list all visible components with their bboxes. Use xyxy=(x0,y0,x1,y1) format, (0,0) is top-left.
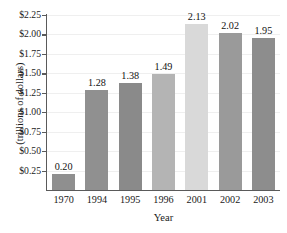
y-tick-mark xyxy=(42,151,47,152)
y-tick-label-wrap: $1.00 xyxy=(0,106,41,118)
y-tick-label-wrap: $1.25 xyxy=(0,87,41,99)
y-tick-mark xyxy=(42,34,47,35)
bar-value-label: 1.95 xyxy=(243,25,283,36)
bar xyxy=(85,90,108,190)
y-tick-label: $2.00 xyxy=(19,28,41,39)
y-tick-label: $1.75 xyxy=(19,48,41,59)
y-tick-label-wrap: $0.75 xyxy=(0,126,41,138)
y-tick-label-wrap: $2.00 xyxy=(0,28,41,40)
x-tick-label: 2003 xyxy=(243,194,283,205)
y-tick-mark xyxy=(42,93,47,94)
grid-line xyxy=(47,15,280,16)
y-tick-mark xyxy=(42,73,47,74)
y-tick-label: $1.25 xyxy=(19,87,41,98)
bar xyxy=(119,83,142,190)
bar-value-label: 0.20 xyxy=(44,161,84,172)
x-axis-title: Year xyxy=(47,212,280,223)
bar xyxy=(152,74,175,190)
bar-value-label: 1.49 xyxy=(144,61,184,72)
x-axis-line xyxy=(46,190,280,191)
bar xyxy=(52,174,75,190)
bar-chart: (trillions of dollars) $0.25$0.50$0.75$1… xyxy=(0,0,287,233)
y-tick-label: $0.50 xyxy=(19,145,41,156)
bar xyxy=(219,33,242,190)
y-tick-label-wrap: $0.50 xyxy=(0,145,41,157)
y-tick-mark xyxy=(42,54,47,55)
y-tick-label: $2.25 xyxy=(19,9,41,20)
y-tick-mark xyxy=(42,132,47,133)
y-tick-label: $0.25 xyxy=(19,165,41,176)
y-tick-mark xyxy=(42,15,47,16)
y-tick-label-wrap: $2.25 xyxy=(0,9,41,21)
y-tick-mark xyxy=(42,112,47,113)
y-tick-label: $0.75 xyxy=(19,126,41,137)
bar xyxy=(185,24,208,190)
grid-line xyxy=(47,54,280,55)
y-tick-label-wrap: $0.25 xyxy=(0,165,41,177)
y-tick-label: $1.50 xyxy=(19,67,41,78)
y-tick-label-wrap: $1.50 xyxy=(0,67,41,79)
y-tick-label: $1.00 xyxy=(19,106,41,117)
bar xyxy=(252,38,275,190)
y-tick-label-wrap: $1.75 xyxy=(0,48,41,60)
